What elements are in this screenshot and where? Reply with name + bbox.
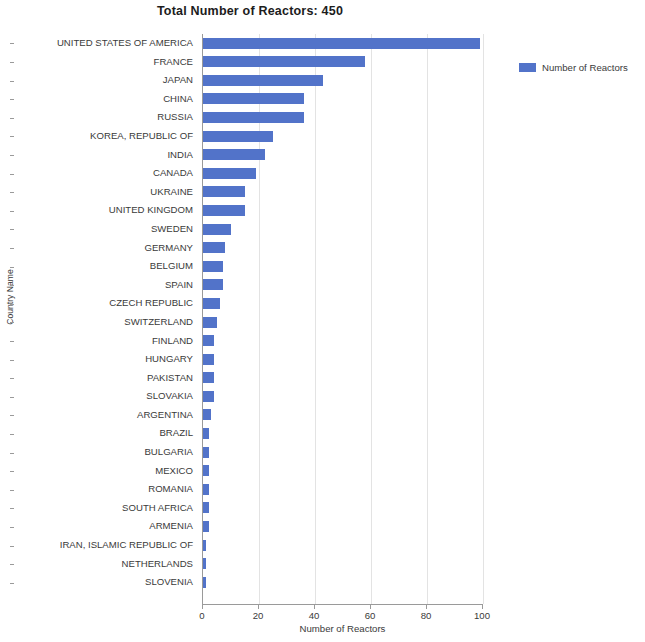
bar[interactable] [203,317,217,328]
y-axis-tick-mark [10,136,14,137]
bar[interactable] [203,447,209,458]
y-axis-tick-mark [10,81,14,82]
bar-row[interactable] [203,239,483,258]
y-axis-tick-label: GERMANY [14,239,198,258]
y-axis-tick-label: PAKISTAN [14,369,198,388]
bar[interactable] [203,38,480,49]
bar-row[interactable] [203,332,483,351]
bar[interactable] [203,149,265,160]
x-axis-tick-mark [370,605,371,609]
x-axis-tick-mark [482,605,483,609]
bar[interactable] [203,56,365,67]
y-axis-tick-mark [10,285,14,286]
bar[interactable] [203,428,209,439]
y-axis-tick-label: SWEDEN [14,220,198,239]
bar-row[interactable] [203,220,483,239]
bar[interactable] [203,577,206,588]
bar-row[interactable] [203,53,483,72]
bar[interactable] [203,298,220,309]
x-axis-tick-label: 20 [253,610,264,621]
y-axis-tick-mark [10,118,14,119]
y-axis-tick-mark [10,453,14,454]
bar-row[interactable] [203,406,483,425]
bar-row[interactable] [203,480,483,499]
bar[interactable] [203,558,206,569]
bar-chart: Total Number of Reactors: 450 Country Na… [0,0,645,642]
y-axis-tick-label: RUSSIA [14,108,198,127]
bar[interactable] [203,261,223,272]
y-axis-tick-mark [10,415,14,416]
y-axis-tick-label: IRAN, ISLAMIC REPUBLIC OF [14,536,198,555]
chart-title: Total Number of Reactors: 450 [0,4,500,18]
y-axis-tick-mark [10,434,14,435]
bar[interactable] [203,168,256,179]
bar-row[interactable] [203,387,483,406]
y-axis-tick-label: ARMENIA [14,517,198,536]
bar[interactable] [203,75,323,86]
bar[interactable] [203,484,209,495]
y-axis-tick-label: FINLAND [14,332,198,351]
y-axis-tick-label: INDIA [14,146,198,165]
bar-row[interactable] [203,462,483,481]
y-axis-tick-label: ARGENTINA [14,406,198,425]
bar[interactable] [203,131,273,142]
bar[interactable] [203,279,223,290]
bar-row[interactable] [203,313,483,332]
bar[interactable] [203,502,209,513]
bar-row[interactable] [203,573,483,592]
bar[interactable] [203,465,209,476]
bar-row[interactable] [203,90,483,109]
bar-row[interactable] [203,499,483,518]
bar[interactable] [203,205,245,216]
bar[interactable] [203,93,304,104]
bar-row[interactable] [203,201,483,220]
y-axis-tick-mark [10,192,14,193]
bar-row[interactable] [203,183,483,202]
bar-row[interactable] [203,424,483,443]
bar-row[interactable] [203,127,483,146]
bar-row[interactable] [203,555,483,574]
y-axis-tick-label: CZECH REPUBLIC [14,294,198,313]
y-axis-tick-labels: UNITED STATES OF AMERICAFRANCEJAPANCHINA… [14,34,198,604]
y-axis-tick-label: FRANCE [14,53,198,72]
bar-row[interactable] [203,536,483,555]
bar-row[interactable] [203,294,483,313]
bar[interactable] [203,372,214,383]
bar-row[interactable] [203,257,483,276]
bar-row[interactable] [203,164,483,183]
bar-row[interactable] [203,71,483,90]
y-axis-tick-label: SOUTH AFRICA [14,499,198,518]
x-axis-tick-label: 60 [365,610,376,621]
x-axis-tick-mark [258,605,259,609]
bar[interactable] [203,335,214,346]
x-axis-tick-label: 0 [199,610,204,621]
y-axis-tick-mark [10,397,14,398]
bar[interactable] [203,112,304,123]
bar[interactable] [203,391,214,402]
bar-row[interactable] [203,443,483,462]
y-axis-tick-label: UNITED KINGDOM [14,201,198,220]
bar-row[interactable] [203,517,483,536]
y-axis-tick-mark [10,211,14,212]
bar-row[interactable] [203,276,483,295]
y-axis-tick-mark [10,267,14,268]
bar-row[interactable] [203,369,483,388]
y-axis-tick-mark [10,304,14,305]
y-axis-tick-label: SLOVAKIA [14,387,198,406]
bar[interactable] [203,409,211,420]
y-axis-tick-mark [10,360,14,361]
y-axis-tick-mark [10,341,14,342]
legend-swatch-icon [519,63,536,72]
bar-row[interactable] [203,34,483,53]
bar[interactable] [203,354,214,365]
bar[interactable] [203,521,209,532]
y-axis-tick-label: JAPAN [14,71,198,90]
bar[interactable] [203,186,245,197]
bar[interactable] [203,224,231,235]
bar[interactable] [203,540,206,551]
plot-area [202,34,483,604]
bar-row[interactable] [203,350,483,369]
bar-row[interactable] [203,108,483,127]
bar-row[interactable] [203,146,483,165]
bar[interactable] [203,242,225,253]
